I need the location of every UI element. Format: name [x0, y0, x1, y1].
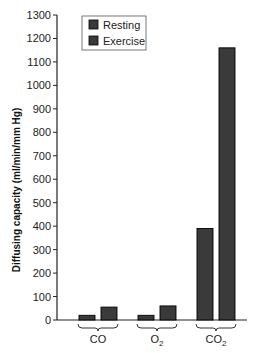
bar-resting-o2 [138, 315, 154, 320]
category-brace [137, 324, 177, 331]
legend-swatch-resting [89, 20, 98, 29]
bar-resting-co2 [197, 229, 213, 321]
category-brace [78, 324, 118, 331]
bar-resting-co [79, 315, 95, 320]
y-tick-label: 300 [33, 244, 51, 256]
y-tick-label: 400 [33, 220, 51, 232]
bar-exercise-o2 [160, 306, 176, 320]
y-tick-label: 800 [33, 126, 51, 138]
y-tick-label: 700 [33, 150, 51, 162]
legend-label-exercise: Exercise [103, 35, 145, 47]
y-tick-label: 1200 [27, 32, 51, 44]
bar-chart: Diffusing capacity (ml/min/mm Hg) 010020… [0, 0, 257, 353]
category-label-co: CO [90, 333, 107, 345]
y-tick-label: 600 [33, 173, 51, 185]
category-label-co2: CO2 [206, 333, 228, 348]
y-tick-label: 1100 [27, 56, 51, 68]
category-label-o2: O2 [150, 333, 164, 348]
bars [79, 48, 235, 320]
category-brace [196, 324, 236, 331]
y-axis-label: Diffusing capacity (ml/min/mm Hg) [11, 108, 22, 272]
y-axis: 0100200300400500600700800900100011001200… [27, 9, 247, 326]
category-labels: COO2CO2 [78, 324, 236, 348]
y-tick-label: 500 [33, 197, 51, 209]
y-tick-label: 900 [33, 103, 51, 115]
y-tick-label: 1000 [27, 79, 51, 91]
y-tick-label: 1300 [27, 9, 51, 21]
bar-exercise-co2 [219, 48, 235, 320]
y-tick-label: 200 [33, 267, 51, 279]
y-tick-label: 0 [45, 314, 51, 326]
bar-exercise-co [101, 307, 117, 320]
legend-label-resting: Resting [103, 19, 140, 31]
legend: Resting Exercise [82, 16, 146, 50]
legend-swatch-exercise [89, 36, 98, 45]
y-tick-label: 100 [33, 291, 51, 303]
